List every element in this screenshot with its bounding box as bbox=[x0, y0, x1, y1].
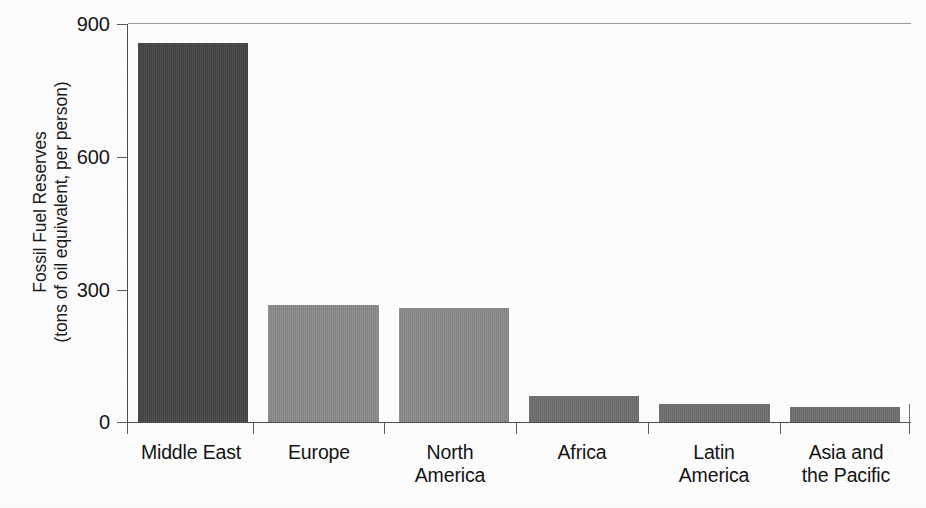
x-label-europe: Europe bbox=[254, 441, 384, 464]
x-tick-mark-3 bbox=[516, 423, 517, 434]
y-tick-label-900: 900 bbox=[50, 14, 110, 34]
y-tick-label-300: 300 bbox=[50, 280, 110, 300]
x-label-africa: Africa bbox=[516, 441, 648, 464]
y-axis-tick-labels: 900 600 300 0 bbox=[48, 0, 110, 508]
x-tick-mark-2 bbox=[384, 423, 385, 434]
bar-chart-figure: Fossil Fuel Reserves (tons of oil equiva… bbox=[0, 0, 926, 508]
x-tick-mark-5 bbox=[780, 423, 781, 434]
y-tick-label-0: 0 bbox=[50, 412, 110, 432]
bar-africa[interactable] bbox=[529, 396, 639, 422]
x-tick-mark-0 bbox=[127, 423, 128, 434]
x-label-latin-america: Latin America bbox=[648, 441, 780, 487]
bar-north-america[interactable] bbox=[399, 308, 509, 422]
x-tick-mark-1 bbox=[253, 423, 254, 434]
bar-latin-america[interactable] bbox=[659, 404, 769, 422]
bar-middle-east[interactable] bbox=[138, 43, 248, 422]
x-label-north-america: North America bbox=[384, 441, 516, 487]
plot-area bbox=[128, 24, 910, 422]
x-tick-mark-6 bbox=[909, 423, 910, 434]
bar-asia-and-the-pacific[interactable] bbox=[790, 407, 900, 422]
x-tick-mark-4 bbox=[648, 423, 649, 434]
bar-europe[interactable] bbox=[268, 305, 378, 422]
x-label-middle-east: Middle East bbox=[128, 441, 254, 464]
y-tick-label-600: 600 bbox=[50, 147, 110, 167]
x-axis-line bbox=[127, 422, 911, 423]
x-label-asia-and-the-pacific: Asia and the Pacific bbox=[780, 441, 912, 487]
